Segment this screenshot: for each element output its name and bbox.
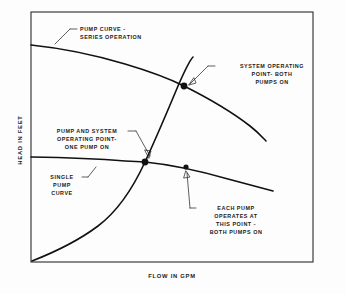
annotation-each-pump-point-line-3: THIS POINT - xyxy=(216,221,256,227)
leader-each-pump-point xyxy=(187,173,196,208)
annotation-each-pump-point-line-4: BOTH PUMPS ON xyxy=(210,229,263,235)
annotation-pump-curve-series-line-1: PUMP CURVE - xyxy=(80,26,126,32)
pump-curve-series-operation xyxy=(31,45,266,141)
system-operating-point-dot xyxy=(181,83,188,90)
y-axis-label: HEAD IN FEET xyxy=(17,115,23,164)
annotation-system-operating-point-line-2: POINT- BOTH xyxy=(252,71,293,77)
leader-system-operating-point xyxy=(190,66,215,84)
each-pump-operating-point-dot xyxy=(183,164,188,169)
pump-system-curve-figure: PUMP CURVE - SERIES OPERATION SYSTEM OPE… xyxy=(0,0,346,293)
leader-pump-and-system-point xyxy=(128,131,150,156)
leader-pump-curve-series xyxy=(55,29,77,44)
x-axis-label: FLOW IN GPM xyxy=(148,273,196,279)
annotation-pump-curve-series-line-2: SERIES OPERATION xyxy=(80,34,142,40)
annotation-each-pump-point-line-1: EACH PUMP xyxy=(217,205,254,211)
one-pump-operating-point-dot xyxy=(142,159,149,166)
annotation-each-pump-point-line-2: OPERATES AT xyxy=(214,213,258,219)
annotation-single-pump-curve-line-3: CURVE xyxy=(51,190,73,196)
annotation-pump-and-system-point-line-3: ONE PUMP ON xyxy=(65,144,109,150)
annotation-single-pump-curve-line-2: PUMP xyxy=(53,182,71,188)
leader-single-pump-curve xyxy=(82,167,96,177)
annotation-single-pump-curve-line-1: SINGLE xyxy=(50,174,73,180)
system-curve xyxy=(32,57,193,261)
annotation-system-operating-point-line-1: SYSTEM OPERATING xyxy=(240,63,304,69)
annotation-system-operating-point-line-3: PUMPS ON xyxy=(255,79,288,85)
annotation-pump-and-system-point-line-1: PUMP AND SYSTEM xyxy=(57,128,117,134)
annotation-pump-and-system-point-line-2: OPERATING POINT- xyxy=(57,136,117,142)
